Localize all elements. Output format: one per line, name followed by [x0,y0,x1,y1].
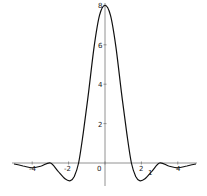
line-chart: -4 -2 0 2 4 2 4 6 8 1 [0,0,207,196]
x-tick-label: -2 [64,165,71,173]
x-tick-label: 2 [139,165,143,173]
x-tick-label: 0 [97,165,101,173]
y-tick-label: 6 [98,42,103,50]
x-tick-label: -4 [29,165,37,173]
y-tick-label: 4 [98,81,103,89]
x-tick-label: 4 [176,165,181,173]
y-tick-label: 2 [98,121,102,129]
